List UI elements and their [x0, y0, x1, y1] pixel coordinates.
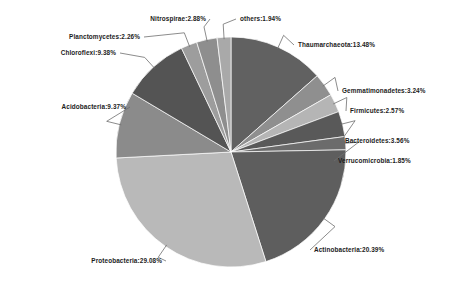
pie-slice-label: Verrucomicrobia:1.85%: [338, 158, 411, 164]
leader-line: [144, 33, 190, 47]
pie-chart-canvas: [0, 0, 462, 289]
pie-slice-label: Thaumarchaeota:13.48%: [298, 42, 375, 48]
pie-slice-label: Planctomycetes:2.26%: [69, 34, 140, 40]
pie-slice-label: Chloroflexi:9.38%: [61, 50, 116, 56]
pie-slice-label: Proteobacteria:29.08%: [91, 258, 162, 264]
pie-slice-label: Bacteroidetes:3.56%: [345, 138, 409, 144]
leader-line: [223, 19, 236, 39]
pie-slice-label: others:1.94%: [240, 16, 281, 22]
pie-chart-figure: Thaumarchaeota:13.48%Gemmatimonadetes:3.…: [0, 0, 462, 289]
pie-slice-label: Nitrospirae:2.88%: [150, 16, 206, 22]
pie-slice-label: Actinobacteria:20.39%: [314, 247, 384, 253]
pie-slices-group: [116, 37, 346, 267]
pie-slice-label: Gemmatimonadetes:3.24%: [342, 88, 426, 94]
pie-slice-label: Acidobacteria:9.37%: [62, 104, 126, 110]
leader-line: [120, 53, 155, 69]
leader-line: [277, 35, 294, 49]
pie-slice-label: Firmicutes:2.57%: [350, 108, 404, 114]
